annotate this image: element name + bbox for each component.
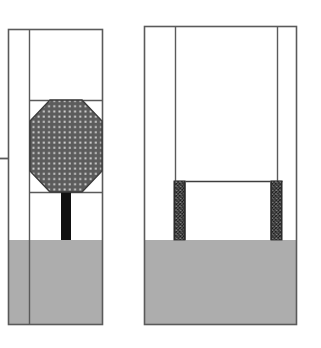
left-panel: [0, 30, 103, 325]
octagon-stem: [61, 188, 71, 240]
drawing-canvas: [0, 0, 321, 348]
right-panel: [145, 27, 297, 325]
octagon-element: [30, 100, 102, 192]
right-panel-foundation: [145, 240, 297, 325]
hatched-column-left: [174, 181, 185, 240]
hatched-column-right: [271, 181, 282, 240]
left-panel-foundation: [9, 240, 103, 325]
technical-drawing: [0, 0, 321, 348]
